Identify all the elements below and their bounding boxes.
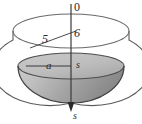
label-origin: 0 [74, 1, 80, 13]
label-axis-bottom: s [73, 111, 77, 121]
bowl-diagram-svg [0, 0, 142, 124]
slant-radius-line [30, 31, 76, 48]
label-axis-mid: s [76, 60, 80, 70]
label-upper-right: 6 [74, 27, 80, 39]
label-surface-radius: a [46, 60, 52, 71]
label-slant-radius: 5 [42, 33, 48, 45]
bowl-diagram-figure: 0 5 6 a s s [0, 0, 142, 124]
